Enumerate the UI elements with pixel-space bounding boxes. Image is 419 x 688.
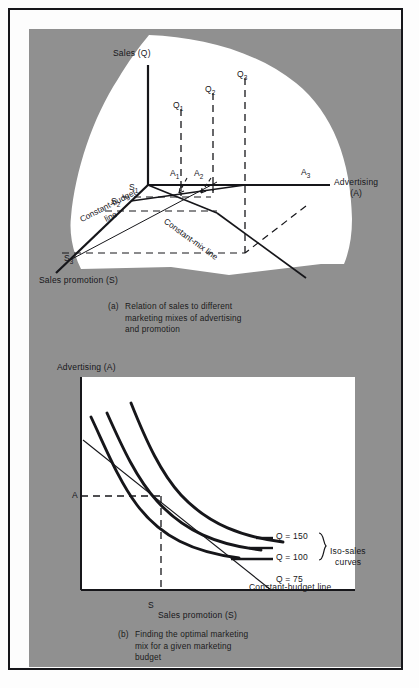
panel-b-tick-a: A [72,490,78,500]
iso-sales-brace-label: Iso-sales curves [330,546,366,568]
caption-a-index: (a) [108,301,125,313]
caption-b-index: (b) [118,629,135,641]
label-advertising-line1: Advertising [334,177,378,188]
response-surface-region [70,35,352,275]
label-a1: A1 [170,168,179,180]
iso-sales-brace-label-line1: Iso-sales [330,546,366,557]
label-a1-sub: 1 [176,173,180,180]
label-q2-sub: 2 [212,89,216,96]
caption-b-line1: Finding the optimal marketing [135,629,248,641]
label-q2: Q2 [205,84,215,96]
iso-sales-brace-label-line2: curves [330,557,366,568]
curve-label-q100: Q = 100 [276,552,308,562]
panel-b-diagram [21,355,393,615]
caption-a-line1: Relation of sales to different [125,301,232,313]
label-q2-base: Q [205,84,212,94]
label-a3-sub: 3 [307,172,311,179]
panel-b-tick-s: S [148,600,154,610]
label-q1-base: Q [173,100,180,110]
caption-a-line2: marketing mixes of advertising [108,313,242,325]
panel-b-label-advertising: Advertising (A) [57,362,116,372]
figure-frame: Sales (Q) Advertising (A) Sales promotio… [8,8,403,670]
figure-root: Sales (Q) Advertising (A) Sales promotio… [0,0,419,688]
caption-b-line2: mix for a given marketing [118,641,248,653]
panel-a-diagram [21,21,393,311]
label-s3-sub: 3 [70,258,74,265]
label-advertising-a: Advertising (A) [334,177,378,199]
label-advertising-line2: (A) [334,188,378,199]
caption-b-line3: budget [118,652,248,664]
caption-b: (b) Finding the optimal marketing mix fo… [118,629,248,664]
label-sales-q: Sales (Q) [113,48,151,58]
label-s3: S3 [64,253,73,265]
label-q3-base: Q [237,69,244,79]
caption-a: (a) Relation of sales to different marke… [108,301,242,336]
label-sales-promotion-s: Sales promotion (S) [39,275,118,285]
label-q1: Q1 [173,100,183,112]
curve-label-q150: Q = 150 [276,531,308,541]
label-a3: A3 [301,167,310,179]
label-q1-sub: 1 [180,105,184,112]
panel-b-budget-line-label: Constant-budget line [249,582,331,592]
label-q3: Q3 [237,69,247,81]
panel-b-label-sales-promotion: Sales promotion (S) [158,610,237,620]
caption-a-line3: and promotion [108,324,242,336]
label-q3-sub: 3 [244,74,248,81]
label-a2-sub: 2 [200,173,204,180]
label-a2: A2 [194,168,203,180]
